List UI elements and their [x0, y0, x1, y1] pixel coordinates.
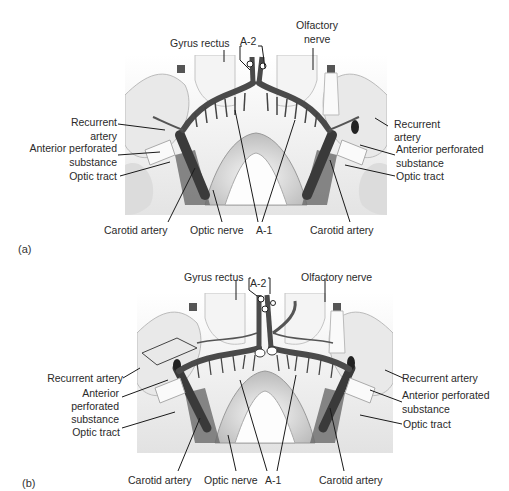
- label-anterior-perforated-left-line3: substance: [71, 413, 119, 425]
- label-anterior-perforated-right-line2: substance: [396, 157, 444, 169]
- label-anterior-perforated-left-line1: Anterior: [82, 387, 119, 399]
- brain-base-drawing-b: [137, 293, 393, 453]
- label-olfactory-nerve: Olfactory nerve: [301, 271, 372, 283]
- label-carotid-artery-left: Carotid artery: [128, 474, 192, 486]
- brain-base-drawing: [125, 55, 387, 215]
- label-optic-nerve: Optic nerve: [204, 474, 258, 486]
- label-recurrent-artery-right-line2: artery: [394, 131, 421, 143]
- label-anterior-perforated-left-line1: Anterior perforated: [29, 142, 117, 154]
- illustration-a: [125, 55, 387, 215]
- label-gyrus-rectus: Gyrus rectus: [170, 37, 230, 49]
- label-carotid-artery-right: Carotid artery: [319, 474, 383, 486]
- label-olfactory-nerve-line1: Olfactory: [296, 19, 338, 31]
- label-anterior-perforated-right-line2: substance: [402, 403, 450, 415]
- label-recurrent-artery-left: Recurrent artery: [47, 372, 123, 384]
- label-a1: A-1: [265, 474, 281, 486]
- label-carotid-artery-left: Carotid artery: [104, 224, 168, 236]
- label-anterior-perforated-left-line2: perforated: [71, 400, 119, 412]
- label-recurrent-artery-right: Recurrent artery: [402, 372, 478, 384]
- figure-panel-b: Gyrus rectus A-2 Olfactory nerve Recurre…: [0, 250, 509, 491]
- label-a2: A-2: [240, 35, 256, 47]
- label-gyrus-rectus: Gyrus rectus: [184, 271, 244, 283]
- label-recurrent-artery-left-line2: artery: [90, 130, 117, 142]
- label-anterior-perforated-right-line1: Anterior perforated: [402, 389, 490, 401]
- panel-letter-b: (b): [22, 477, 35, 489]
- label-olfactory-nerve-line2: nerve: [304, 33, 330, 45]
- label-anterior-perforated-left-line2: substance: [69, 156, 117, 168]
- label-anterior-perforated-right-line1: Anterior perforated: [396, 143, 484, 155]
- label-a2: A-2: [250, 277, 266, 289]
- label-optic-tract-left: Optic tract: [69, 170, 117, 182]
- label-optic-nerve: Optic nerve: [190, 224, 244, 236]
- label-optic-tract-left: Optic tract: [72, 426, 120, 438]
- label-recurrent-artery-left-line1: Recurrent: [71, 116, 117, 128]
- figure-panel-a: Gyrus rectus A-2 Olfactory nerve Recurre…: [0, 0, 509, 250]
- illustration-b: [137, 293, 393, 453]
- label-a1: A-1: [256, 224, 272, 236]
- label-recurrent-artery-right-line1: Recurrent: [394, 118, 440, 130]
- label-carotid-artery-right: Carotid artery: [310, 224, 374, 236]
- label-optic-tract-right: Optic tract: [396, 170, 444, 182]
- label-optic-tract-right: Optic tract: [403, 418, 451, 430]
